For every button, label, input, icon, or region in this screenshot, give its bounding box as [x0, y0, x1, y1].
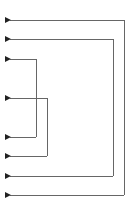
bracket-arrow-diagram [0, 0, 128, 204]
